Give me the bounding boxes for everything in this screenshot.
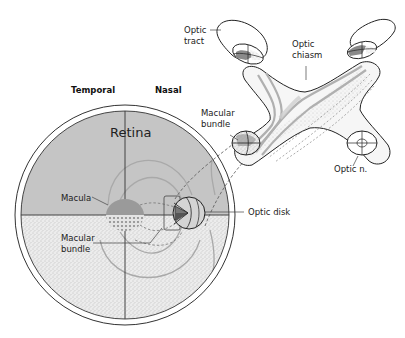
label-temporal: Temporal — [71, 85, 115, 95]
label-optic-chiasm-1: Optic — [292, 39, 315, 49]
optic-disk — [173, 197, 205, 229]
label-nasal: Nasal — [155, 85, 182, 95]
optic-tract-right — [345, 19, 395, 61]
macula — [106, 199, 144, 231]
label-macular-bundle-retina-2: bundle — [61, 244, 90, 254]
label-optic-disk: Optic disk — [248, 207, 290, 217]
optic-nerve-cross-section-left — [232, 131, 260, 155]
label-optic-nerve: Optic n. — [334, 164, 367, 174]
label-macular-bundle-retina-1: Macular — [61, 233, 95, 243]
label-macular-bundle-nerve-1: Macular — [201, 108, 235, 118]
optic-nerve-cross-section-right — [347, 131, 377, 155]
label-macula: Macula — [61, 193, 91, 203]
label-optic-tract-1: Optic — [184, 25, 207, 35]
label-optic-tract-2: tract — [184, 36, 205, 46]
visual-pathway-diagram: Temporal Nasal Retina Macula Macular bun… — [0, 0, 405, 338]
label-macular-bundle-nerve-2: bundle — [201, 119, 230, 129]
label-retina: Retina — [110, 125, 151, 140]
label-optic-chiasm-2: chiasm — [292, 50, 322, 60]
optic-tract-left — [217, 20, 267, 68]
